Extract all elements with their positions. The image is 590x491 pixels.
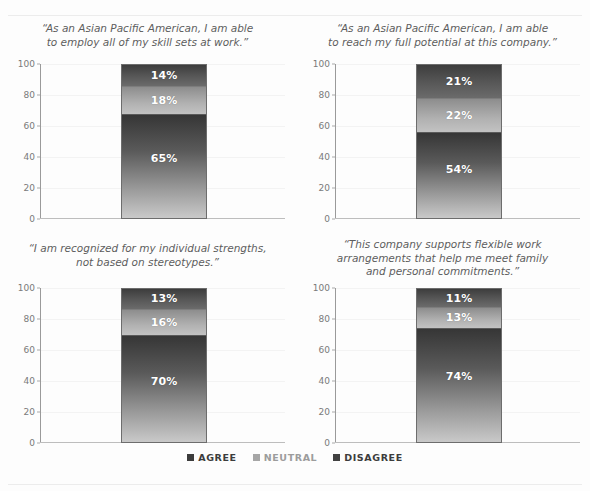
- y-tick-label: 100: [18, 59, 35, 69]
- bar-segment-label: 21%: [446, 75, 472, 88]
- bar-segment-label: 22%: [446, 109, 472, 122]
- y-tick-label: 40: [24, 152, 35, 162]
- plot-area-2: 100 80 60 40 20 0 21% 22% 54%: [335, 64, 580, 219]
- legend-label-disagree: DISAGREE: [344, 452, 403, 463]
- y-tick-label: 20: [24, 407, 35, 417]
- bar-segment-label: 13%: [446, 311, 472, 324]
- y-tick-label: 60: [319, 345, 330, 355]
- bar-segment-label: 70%: [151, 374, 177, 387]
- y-axis-3: [40, 288, 41, 443]
- y-tick-label: 20: [24, 183, 35, 193]
- y-tick-label: 20: [319, 183, 330, 193]
- legend-item-disagree[interactable]: DISAGREE: [333, 452, 403, 463]
- stacked-bar-1[interactable]: 14% 18% 65%: [121, 64, 207, 219]
- bar-segment-label: 74%: [446, 370, 472, 383]
- y-axis-2: [335, 64, 336, 219]
- plot-area-4: 100 80 60 40 20 0 11% 13% 74%: [335, 288, 580, 443]
- y-tick-label: 0: [29, 214, 35, 224]
- chart-title-1-line2: to employ all of my skill sets at work.”: [20, 36, 275, 50]
- bar-segment-label: 65%: [151, 152, 177, 165]
- divider-bottom: [8, 484, 582, 485]
- plot-area-3: 100 80 60 40 20 0 13% 16% 70%: [40, 288, 285, 443]
- bar-segment-label: 18%: [151, 94, 177, 107]
- legend-swatch-icon: [187, 454, 194, 461]
- bar-segment-disagree[interactable]: 14%: [122, 65, 206, 87]
- chart-title-3-line1: “I am recognized for my individual stren…: [20, 242, 275, 256]
- chart-title-2-line1: “As an Asian Pacific American, I am able: [315, 22, 570, 36]
- stacked-bar-4[interactable]: 11% 13% 74%: [416, 288, 502, 443]
- bar-segment-disagree[interactable]: 13%: [122, 289, 206, 310]
- y-tick-label: 80: [319, 90, 330, 100]
- y-tick-label: 0: [324, 214, 330, 224]
- legend-item-neutral[interactable]: NEUTRAL: [253, 452, 318, 463]
- chart-legend: AGREE NEUTRAL DISAGREE: [0, 452, 590, 463]
- bar-segment-label: 54%: [446, 162, 472, 175]
- y-tick-label: 100: [313, 59, 330, 69]
- bar-segment-agree[interactable]: 70%: [122, 336, 206, 442]
- chart-title-4-line1: “This company supports flexible work: [315, 238, 570, 252]
- y-tick-label: 0: [324, 438, 330, 448]
- y-tick-label: 40: [24, 376, 35, 386]
- y-tick-label: 80: [24, 90, 35, 100]
- y-tick-label: 100: [313, 283, 330, 293]
- bar-segment-label: 11%: [446, 292, 472, 305]
- y-tick-label: 0: [29, 438, 35, 448]
- y-tick-label: 20: [319, 407, 330, 417]
- chart-title-4: “This company supports flexible work arr…: [315, 238, 570, 279]
- chart-panel-4: “This company supports flexible work arr…: [295, 238, 590, 458]
- y-tick-label: 40: [319, 376, 330, 386]
- y-tick-label: 60: [319, 121, 330, 131]
- bar-segment-label: 14%: [151, 69, 177, 82]
- chart-title-4-line2: arrangements that help me meet family: [315, 252, 570, 266]
- bar-segment-disagree[interactable]: 21%: [417, 65, 501, 99]
- bar-segment-agree[interactable]: 74%: [417, 329, 501, 442]
- bar-segment-neutral[interactable]: 18%: [122, 87, 206, 115]
- bar-segment-disagree[interactable]: 11%: [417, 289, 501, 308]
- stacked-bar-2[interactable]: 21% 22% 54%: [416, 64, 502, 219]
- y-tick-label: 80: [319, 314, 330, 324]
- stacked-bar-3[interactable]: 13% 16% 70%: [121, 288, 207, 443]
- bar-segment-label: 13%: [151, 292, 177, 305]
- bar-segment-neutral[interactable]: 16%: [122, 310, 206, 337]
- legend-item-agree[interactable]: AGREE: [187, 452, 236, 463]
- y-tick-label: 40: [319, 152, 330, 162]
- chart-title-4-line3: and personal commitments.”: [315, 265, 570, 279]
- bar-segment-agree[interactable]: 54%: [417, 133, 501, 218]
- legend-swatch-icon: [253, 454, 260, 461]
- legend-swatch-icon: [333, 454, 340, 461]
- y-axis-1: [40, 64, 41, 219]
- chart-page: “As an Asian Pacific American, I am able…: [0, 0, 590, 491]
- bar-segment-neutral[interactable]: 13%: [417, 308, 501, 329]
- y-axis-4: [335, 288, 336, 443]
- y-tick-label: 60: [24, 121, 35, 131]
- chart-grid: “As an Asian Pacific American, I am able…: [0, 18, 590, 458]
- bar-segment-neutral[interactable]: 22%: [417, 99, 501, 133]
- plot-area-1: 100 80 60 40 20 0 14% 18% 65%: [40, 64, 285, 219]
- chart-panel-3: “I am recognized for my individual stren…: [0, 238, 295, 458]
- chart-panel-2: “As an Asian Pacific American, I am able…: [295, 18, 590, 238]
- bar-segment-label: 16%: [151, 316, 177, 329]
- chart-panel-1: “As an Asian Pacific American, I am able…: [0, 18, 295, 238]
- divider-top: [8, 15, 582, 16]
- y-tick-label: 100: [18, 283, 35, 293]
- legend-label-agree: AGREE: [198, 452, 236, 463]
- y-tick-label: 80: [24, 314, 35, 324]
- chart-title-3-line2: not based on stereotypes.”: [20, 256, 275, 270]
- chart-title-1-line1: “As an Asian Pacific American, I am able: [20, 22, 275, 36]
- y-tick-label: 60: [24, 345, 35, 355]
- chart-title-2-line2: to reach my full potential at this compa…: [315, 36, 570, 50]
- bar-segment-agree[interactable]: 65%: [122, 115, 206, 218]
- chart-title-1: “As an Asian Pacific American, I am able…: [20, 22, 275, 49]
- chart-title-3: “I am recognized for my individual stren…: [20, 242, 275, 269]
- cropped-header-text: [0, 0, 590, 11]
- legend-label-neutral: NEUTRAL: [264, 452, 318, 463]
- chart-title-2: “As an Asian Pacific American, I am able…: [315, 22, 570, 49]
